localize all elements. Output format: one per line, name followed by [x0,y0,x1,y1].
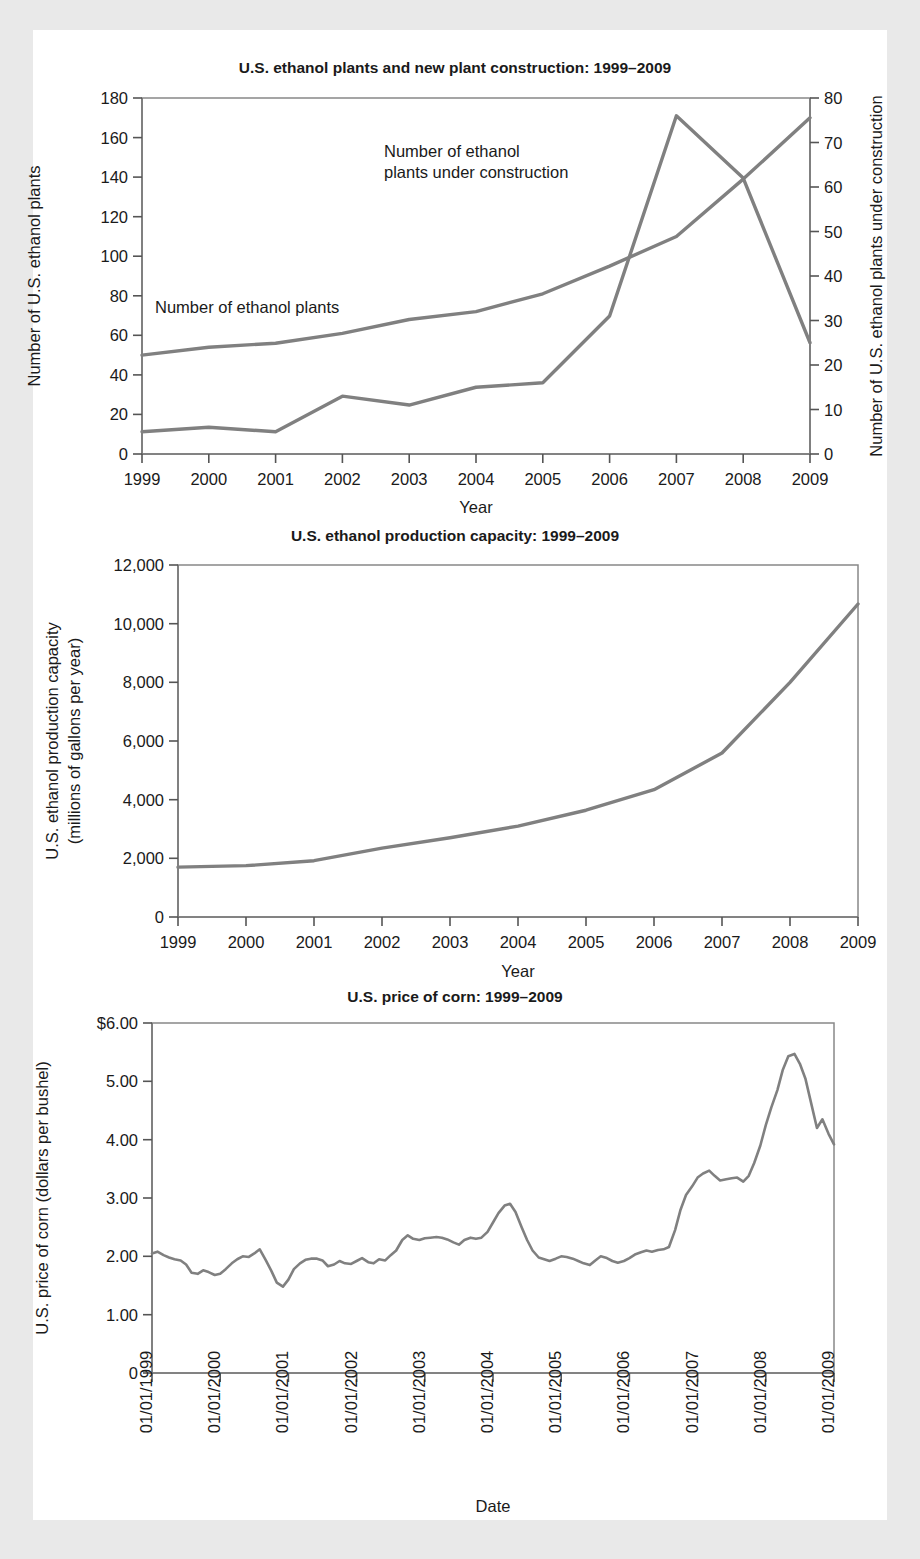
chart3-xtick-2003: 01/01/2003 [410,1351,428,1434]
chart2-xtick-2007: 2007 [704,933,741,951]
chart1-left-axis: 180 160 140 120 100 80 60 40 20 0 Number… [25,89,142,463]
figure-container: U.S. ethanol plants and new plant constr… [0,0,920,1559]
chart2-ylabel-line1: U.S. ethanol production capacity [43,621,61,859]
chart2-y-axis: 12,000 10,000 8,000 6,000 4,000 2,000 0 … [43,556,178,926]
chart3-plot-frame [152,1023,834,1373]
chart1-xlabel: Year [459,498,493,516]
chart2-xtick-2005: 2005 [568,933,605,951]
chart3-ytick-1: 1.00 [106,1306,138,1324]
chart1-xtick-2005: 2005 [524,470,561,488]
chart1-xtick-2008: 2008 [725,470,762,488]
chart2-ytick-12000: 12,000 [114,556,164,574]
chart-ethanol-plants-construction: U.S. ethanol plants and new plant constr… [25,59,885,516]
chart2-ytick-2000: 2,000 [123,849,164,867]
chart3-ytick-6: $6.00 [97,1014,138,1032]
charts-svg: U.S. ethanol plants and new plant constr… [0,0,920,1559]
chart3-xtick-1999: 01/01/1999 [137,1351,155,1434]
chart1-x-axis: 1999 2000 2001 2002 2003 2004 2005 2006 … [124,454,829,516]
chart3-ytick-4: 4.00 [106,1131,138,1149]
chart2-ytick-6000: 6,000 [123,732,164,750]
chart1-ytick-60: 60 [110,326,128,344]
chart2-ytick-4000: 4,000 [123,791,164,809]
chart1-ylabel: Number of U.S. ethanol plants [25,165,43,386]
chart2-x-axis: 1999 2000 2001 2002 2003 2004 2005 2006 … [160,917,877,980]
chart1-xtick-2003: 2003 [391,470,428,488]
chart1-y2tick-50: 50 [824,223,842,241]
chart3-ytick-3: 3.00 [106,1189,138,1207]
chart2-xtick-2001: 2001 [296,933,333,951]
chart1-y2tick-20: 20 [824,356,842,374]
chart1-ytick-80: 80 [110,287,128,305]
chart1-xtick-2006: 2006 [591,470,628,488]
chart1-y2tick-0: 0 [824,445,833,463]
chart1-xtick-2000: 2000 [190,470,227,488]
chart2-xtick-2009: 2009 [840,933,877,951]
chart2-xtick-2002: 2002 [364,933,401,951]
chart1-ytick-20: 20 [110,405,128,423]
chart1-ytick-160: 160 [100,129,128,147]
chart1-ytick-120: 120 [100,208,128,226]
chart1-annotation-construction-line1: Number of ethanol [384,142,520,160]
chart2-xtick-2006: 2006 [636,933,673,951]
chart1-ytick-180: 180 [100,89,128,107]
chart1-y2tick-10: 10 [824,401,842,419]
chart1-y2tick-30: 30 [824,312,842,330]
chart3-xtick-2004: 01/01/2004 [478,1351,496,1434]
chart3-y-axis: $6.00 5.00 4.00 3.00 2.00 1.00 0 U.S. pr… [33,1014,152,1382]
chart3-ytick-2: 2.00 [106,1247,138,1265]
chart1-ytick-140: 140 [100,168,128,186]
chart3-xtick-2009: 01/01/2009 [819,1351,837,1434]
chart3-xtick-2006: 01/01/2006 [614,1351,632,1434]
chart1-xtick-2002: 2002 [324,470,361,488]
chart3-xtick-2000: 01/01/2000 [205,1351,223,1434]
chart1-title: U.S. ethanol plants and new plant constr… [239,59,672,76]
chart2-xtick-2008: 2008 [772,933,809,951]
chart2-xtick-1999: 1999 [160,933,197,951]
chart2-series-capacity [178,604,858,867]
chart3-xtick-2002: 01/01/2002 [342,1351,360,1434]
chart1-xtick-2007: 2007 [658,470,695,488]
chart1-right-axis: 80 70 60 50 40 30 20 10 0 Number of U.S.… [810,89,885,463]
chart1-ytick-100: 100 [100,247,128,265]
chart2-ytick-0: 0 [155,908,164,926]
chart2-xtick-2003: 2003 [432,933,469,951]
chart1-xtick-1999: 1999 [124,470,161,488]
chart2-xlabel: Year [501,962,535,980]
chart3-xtick-2008: 01/01/2008 [751,1351,769,1434]
chart2-xtick-2004: 2004 [500,933,537,951]
chart1-xtick-2001: 2001 [257,470,294,488]
chart1-y2tick-70: 70 [824,134,842,152]
chart1-y2tick-40: 40 [824,267,842,285]
chart-price-of-corn: U.S. price of corn: 1999–2009 $6.00 5.00… [33,988,837,1515]
chart3-xtick-2001: 01/01/2001 [273,1351,291,1434]
chart1-annotation-plants: Number of ethanol plants [155,298,339,316]
chart3-series-corn-price [152,1054,834,1287]
chart2-ylabel-line2: (millions of gallons per year) [65,638,83,844]
chart3-xtick-2005: 01/01/2005 [546,1351,564,1434]
chart3-xtick-2007: 01/01/2007 [683,1351,701,1434]
chart3-x-axis: 01/01/1999 01/01/2000 01/01/2001 01/01/2… [137,1351,837,1515]
chart3-title: U.S. price of corn: 1999–2009 [347,988,563,1005]
chart1-y2label: Number of U.S. ethanol plants under cons… [867,95,885,456]
chart-ethanol-production-capacity: U.S. ethanol production capacity: 1999–2… [43,527,876,980]
chart1-xtick-2009: 2009 [792,470,829,488]
chart3-ytick-5: 5.00 [106,1072,138,1090]
chart2-ytick-8000: 8,000 [123,673,164,691]
chart3-xlabel: Date [476,1497,511,1515]
chart2-title: U.S. ethanol production capacity: 1999–2… [291,527,620,544]
chart1-y2tick-80: 80 [824,89,842,107]
chart2-xtick-2000: 2000 [228,933,265,951]
chart1-ytick-0: 0 [119,445,128,463]
chart1-y2tick-60: 60 [824,178,842,196]
chart1-annotation-construction-line2: plants under construction [384,163,568,181]
chart2-ytick-10000: 10,000 [114,615,164,633]
chart1-xtick-2004: 2004 [458,470,495,488]
chart1-ytick-40: 40 [110,366,128,384]
chart3-ylabel: U.S. price of corn (dollars per bushel) [33,1061,51,1334]
